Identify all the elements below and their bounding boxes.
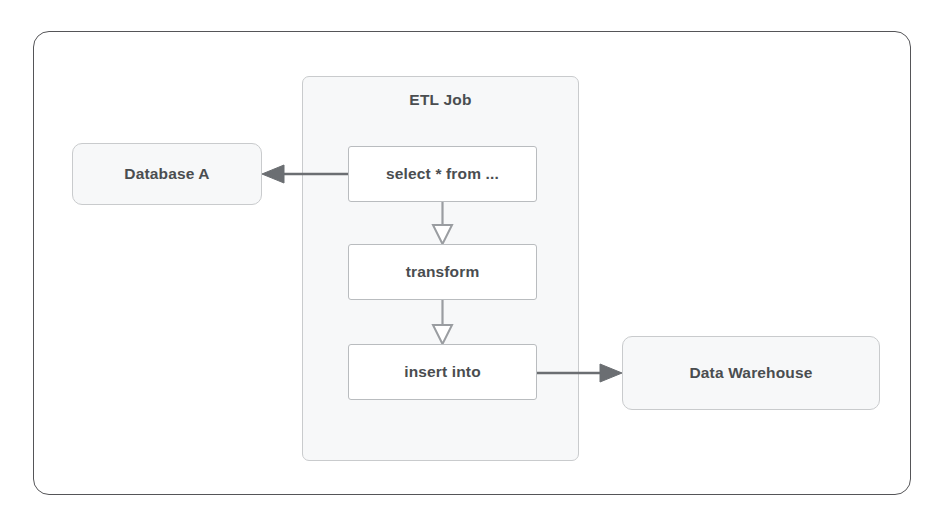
node-label-select: select * from ... <box>386 165 499 184</box>
node-database-a[interactable]: Database A <box>72 143 262 205</box>
node-transform[interactable]: transform <box>348 244 537 300</box>
node-label-database-a: Database A <box>124 165 209 184</box>
node-label-insert-into: insert into <box>404 363 481 382</box>
node-label-transform: transform <box>406 263 480 282</box>
diagram-canvas: ETL Job Database A (leftwards, solid hea… <box>0 0 948 530</box>
node-data-warehouse[interactable]: Data Warehouse <box>622 336 880 410</box>
node-select[interactable]: select * from ... <box>348 146 537 202</box>
group-title-etl-job: ETL Job <box>303 91 578 109</box>
node-label-data-warehouse: Data Warehouse <box>690 364 813 383</box>
node-insert-into[interactable]: insert into <box>348 344 537 400</box>
